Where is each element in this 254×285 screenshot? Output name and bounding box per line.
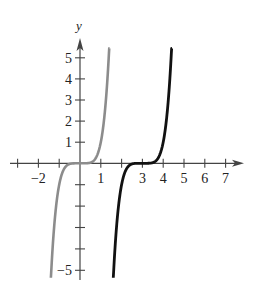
y-tick-label: 3 — [65, 93, 72, 108]
x-tick-label: 4 — [160, 171, 167, 186]
y-tick-label: 1 — [65, 135, 72, 150]
x-tick-label: −2 — [31, 171, 46, 186]
x-tick-label: 6 — [201, 171, 208, 186]
y-tick-label: 5 — [65, 51, 72, 66]
y-tick-label: 2 — [65, 114, 72, 129]
x-tick-label: 1 — [97, 171, 104, 186]
y-tick-label: 4 — [65, 72, 72, 87]
y-axis-label: y — [74, 18, 82, 33]
chart: −213456754321−5 y — [0, 0, 254, 285]
ticks — [18, 58, 226, 270]
axes — [10, 38, 244, 280]
y-tick-label: −5 — [57, 263, 72, 278]
x-tick-label: 3 — [139, 171, 146, 186]
x-tick-label: 7 — [222, 171, 229, 186]
x-tick-label: 5 — [181, 171, 188, 186]
